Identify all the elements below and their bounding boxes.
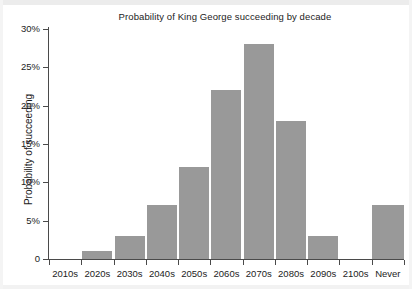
bar-2080s <box>275 121 307 259</box>
bar-2030s <box>114 236 146 259</box>
x-tick-11 <box>404 260 405 265</box>
x-tick-0 <box>49 260 50 265</box>
y-tick-10 <box>43 182 49 183</box>
bar-2090s <box>307 236 339 259</box>
x-tick-8 <box>307 260 308 265</box>
y-tick-25 <box>43 67 49 68</box>
y-axis-label: Probability of succeeding <box>23 70 34 230</box>
x-tick-label-never: Never <box>361 268 412 279</box>
bar-2040s <box>146 205 178 259</box>
bar-2050s <box>178 167 210 259</box>
y-tick-5 <box>43 221 49 222</box>
x-tick-1 <box>81 260 82 265</box>
y-tick-30 <box>43 29 49 30</box>
bar-never <box>372 205 404 259</box>
bar-2020s <box>81 251 113 259</box>
x-tick-4 <box>178 260 179 265</box>
x-tick-2 <box>114 260 115 265</box>
x-tick-5 <box>210 260 211 265</box>
bottom-edge-band <box>0 285 412 289</box>
y-tick-20 <box>43 106 49 107</box>
x-tick-6 <box>243 260 244 265</box>
x-tick-10 <box>372 260 373 265</box>
y-tick-label-5: 5% <box>0 215 40 226</box>
y-tick-label-10: 10% <box>0 176 40 187</box>
y-tick-label-0: 0 <box>0 253 40 264</box>
top-edge-band <box>0 0 412 5</box>
y-tick-label-15: 15% <box>0 138 40 149</box>
y-tick-label-20: 20% <box>0 100 40 111</box>
chart-screenshot: Probability of King George succeeding by… <box>0 0 412 289</box>
x-tick-7 <box>275 260 276 265</box>
chart-title: Probability of King George succeeding by… <box>60 11 390 22</box>
y-tick-label-25: 25% <box>0 61 40 72</box>
y-tick-15 <box>43 144 49 145</box>
x-tick-3 <box>146 260 147 265</box>
bar-2070s <box>243 44 275 259</box>
bar-2060s <box>210 90 242 259</box>
y-tick-label-30: 30% <box>0 23 40 34</box>
x-axis-line <box>48 259 404 260</box>
x-tick-9 <box>339 260 340 265</box>
